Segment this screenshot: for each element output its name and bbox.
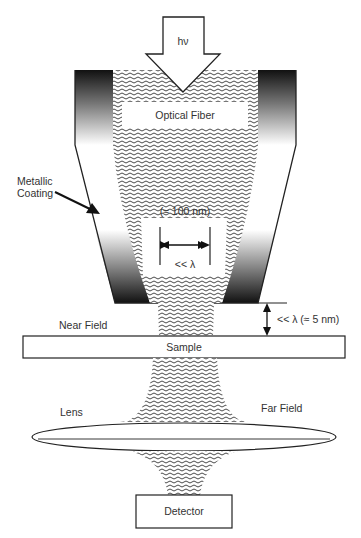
optical-fiber-label: Optical Fiber <box>155 109 215 121</box>
gap-arrowhead-down-icon <box>263 327 271 336</box>
metallic-coating-label-1: Metallic <box>17 175 53 187</box>
photon-label: hν <box>177 35 188 47</box>
metallic-coating-arrow <box>55 192 92 210</box>
far-field-cone-upper <box>120 358 248 422</box>
far-field-cone-lower <box>130 451 238 495</box>
far-field-label: Far Field <box>261 402 303 414</box>
sample-label: Sample <box>166 341 202 353</box>
gap-distance-label: << λ (≈ 5 nm) <box>277 313 339 325</box>
gap-arrowhead-up-icon <box>263 303 271 312</box>
nsom-diagram: hν Optical Fiber (≈ 100 nm) << λ Metalli… <box>0 0 361 538</box>
near-field-label: Near Field <box>59 319 108 331</box>
lens-label: Lens <box>60 406 83 418</box>
near-field-light <box>158 303 214 336</box>
detector-label: Detector <box>164 505 204 517</box>
lens <box>32 423 336 451</box>
aperture-relation-label: << λ <box>175 258 196 270</box>
aperture-size-label: (≈ 100 nm) <box>160 205 211 217</box>
metallic-coating-label-2: Coating <box>17 187 53 199</box>
